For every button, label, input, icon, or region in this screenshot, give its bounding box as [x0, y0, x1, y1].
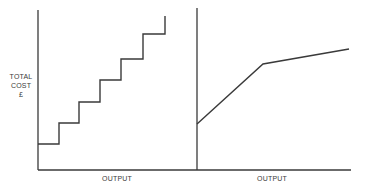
y-axis-label: TOTAL COST £	[6, 72, 36, 99]
stepped-cost-line	[38, 16, 165, 144]
y-axis-label-line-2: COST	[6, 81, 36, 90]
semi-variable-cost-line	[197, 49, 349, 124]
cost-behaviour-diagram: TOTAL COST £ OUTPUT OUTPUT	[0, 0, 366, 195]
chart-svg	[0, 0, 366, 195]
y-axis-label-line-3: £	[6, 90, 36, 99]
x-axis-label-right: OUTPUT	[251, 174, 293, 183]
y-axis-label-line-1: TOTAL	[6, 72, 36, 81]
x-axis-label-left: OUTPUT	[96, 174, 138, 183]
